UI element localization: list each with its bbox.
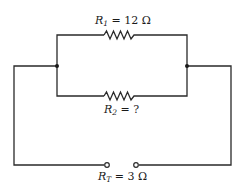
left-junction-node xyxy=(55,64,59,68)
outer-left-wire xyxy=(14,66,104,165)
circuit-diagram xyxy=(0,0,242,190)
rt-value: = 3 Ω xyxy=(111,170,147,183)
resistor-r2-symbol xyxy=(104,92,136,100)
left-terminal xyxy=(105,163,110,168)
resistor-r1-symbol xyxy=(104,31,136,39)
r1-label: R1 = 12 Ω xyxy=(95,15,151,28)
rt-label: RT = 3 Ω xyxy=(98,171,147,184)
r1-value: = 12 Ω xyxy=(108,14,151,27)
outer-right-wire xyxy=(139,66,231,165)
r2-label: R2 = ? xyxy=(104,104,139,117)
r2-value: = ? xyxy=(117,103,139,116)
top-branch-wire xyxy=(57,35,187,66)
right-junction-node xyxy=(185,64,189,68)
right-terminal xyxy=(134,163,139,168)
bottom-branch-wire xyxy=(57,66,187,96)
